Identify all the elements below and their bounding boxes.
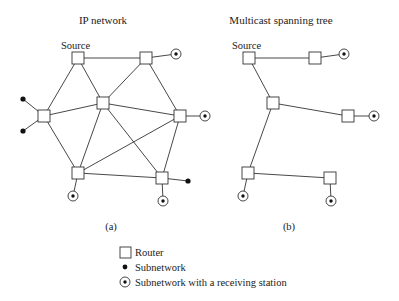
receiving-station-icon	[200, 111, 210, 121]
router-square-icon	[120, 247, 131, 258]
receiving-station-icon	[326, 196, 336, 206]
router-center-b	[267, 97, 279, 109]
panel-b-source-label: Source	[232, 40, 261, 51]
router-right-a	[174, 110, 186, 122]
tree-link-source-center	[249, 58, 273, 103]
diagram-canvas: IP network Source	[0, 0, 399, 301]
subnetwork-dot-icon	[20, 128, 25, 133]
panel-a-source-label: Source	[61, 40, 90, 51]
panel-a-title: IP network	[79, 14, 128, 26]
subnetwork-dot-icon	[20, 96, 25, 101]
link-center-bottomleft	[78, 103, 103, 173]
tree-link-bottomleft-bottomright	[248, 173, 330, 178]
panel-b-caption: (b)	[283, 221, 296, 233]
link-left-center	[44, 103, 103, 116]
router-bottomright-b	[324, 172, 336, 184]
router-source-a	[72, 52, 84, 64]
receiving-station-icon	[339, 49, 349, 59]
panel-a-links	[23, 54, 205, 201]
panel-b-title: Multicast spanning tree	[229, 14, 332, 26]
legend-label-router: Router	[135, 247, 164, 258]
link-center-right	[103, 103, 180, 116]
tree-link-center-bottomleft	[248, 103, 273, 173]
link-left-bottomleft	[44, 116, 78, 173]
receiving-station-icon	[158, 196, 168, 206]
router-topright-a	[140, 52, 152, 64]
legend-item-subnetwork: Subnetwork	[123, 262, 187, 273]
router-right-b	[342, 110, 354, 122]
link-bottomleft-bottomright	[78, 173, 162, 178]
link-right-bottomleft	[78, 116, 180, 173]
router-source-b	[243, 52, 255, 64]
router-bottomright-a	[156, 172, 168, 184]
legend-item-router: Router	[120, 247, 164, 258]
legend-label-receiving-station: Subnetwork with a receiving station	[135, 277, 287, 288]
link-center-bottomright	[103, 103, 162, 178]
subnetwork-dot-icon	[185, 178, 190, 183]
router-center-a	[97, 97, 109, 109]
link-source-center	[78, 58, 103, 103]
router-bottomleft-a	[72, 167, 84, 179]
receiving-station-icon	[171, 49, 181, 59]
router-topright-b	[309, 52, 321, 64]
legend: Router Subnetwork Subnetwork with a rece…	[120, 247, 287, 288]
panel-a-caption: (a)	[105, 221, 117, 233]
panel-b-multicast-tree: Multicast spanning tree Source (b)	[229, 14, 379, 233]
panel-b-links	[243, 54, 374, 201]
legend-item-receiving-station: Subnetwork with a receiving station	[120, 277, 287, 288]
router-bottomleft-b	[242, 167, 254, 179]
link-topright-center	[103, 58, 146, 103]
link-topright-right	[146, 58, 180, 116]
link-source-left	[44, 58, 78, 116]
receiving-station-icon	[68, 191, 78, 201]
legend-label-subnetwork: Subnetwork	[135, 262, 186, 273]
tree-link-center-right	[273, 103, 348, 116]
receiving-station-icon	[120, 277, 130, 287]
receiving-station-icon	[369, 111, 379, 121]
panel-a-ip-network: IP network Source	[20, 14, 210, 233]
subnetwork-dot-icon	[123, 265, 128, 270]
receiving-station-icon	[238, 191, 248, 201]
router-left-a	[38, 110, 50, 122]
link-right-bottomright	[162, 116, 180, 178]
